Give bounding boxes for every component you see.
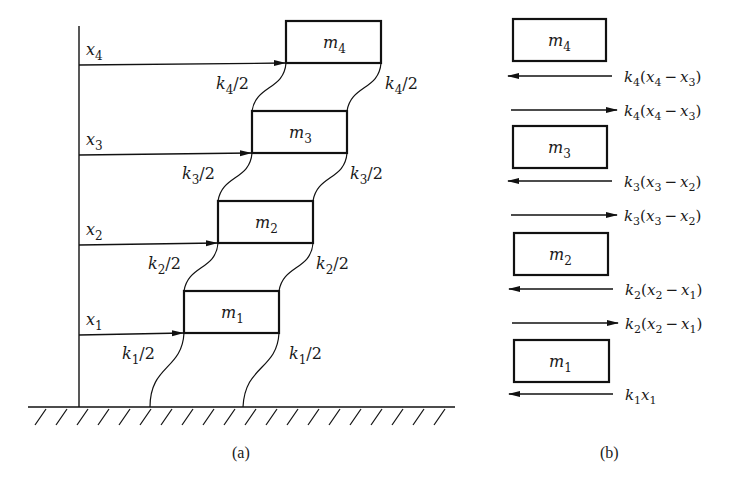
label-x4: x4: [86, 40, 103, 63]
shear-building-diagram: m4 m3 m2 m1 x4 x3 x2 x1 k4/2 k3/2 k2/2 k…: [0, 0, 734, 481]
ground-hatching: [35, 409, 445, 425]
column-k3-left: [218, 153, 252, 201]
label-k2-left: k2/2: [148, 254, 181, 277]
column-k2-right: [279, 243, 313, 291]
ground: [28, 407, 455, 425]
arrow-x4: [79, 63, 285, 65]
force-label-k3-lower: k3(x3−x2): [624, 207, 701, 228]
label-k1-right: k1/2: [289, 344, 322, 367]
caption-b: (b): [600, 444, 619, 462]
force-label-k1: k1x1: [625, 386, 657, 407]
label-x2: x2: [86, 220, 103, 243]
force-label-k2-upper: k2(x2−x1): [625, 281, 702, 302]
label-k2-right: k2/2: [316, 254, 349, 277]
label-k4-right: k4/2: [385, 74, 418, 97]
force-label-k3-upper: k3(x3−x2): [624, 173, 701, 194]
panel-b: m4 m3 m2 m1 k4(x4−x3) k4(x4−x3) k3(x3−x2…: [508, 19, 702, 462]
label-x1: x1: [86, 310, 103, 333]
label-k3-right: k3/2: [350, 164, 383, 187]
arrow-x1: [79, 333, 183, 335]
column-k1-left: [150, 333, 184, 407]
label-k3-left: k3/2: [182, 164, 215, 187]
label-k1-left: k1/2: [122, 344, 155, 367]
label-k4-left: k4/2: [216, 74, 249, 97]
column-k4-right: [347, 63, 381, 111]
force-label-k4-lower: k4(x4−x3): [624, 102, 701, 123]
column-k2-left: [184, 243, 218, 291]
label-x3: x3: [86, 130, 103, 153]
column-k1-right: [243, 333, 279, 407]
column-k4-left: [252, 63, 286, 111]
force-label-k4-upper: k4(x4−x3): [624, 68, 701, 89]
panel-a: m4 m3 m2 m1 x4 x3 x2 x1 k4/2 k3/2 k2/2 k…: [28, 21, 455, 462]
caption-a: (a): [232, 444, 250, 462]
arrow-x3: [79, 153, 251, 155]
force-label-k2-lower: k2(x2−x1): [625, 315, 702, 336]
column-k3-right: [313, 153, 347, 201]
arrow-x2: [79, 243, 217, 245]
